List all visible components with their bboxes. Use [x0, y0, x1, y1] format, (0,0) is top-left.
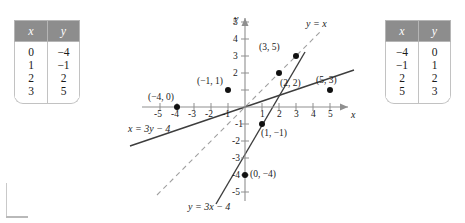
table-cell: 0	[419, 46, 450, 59]
point-label-1-neg1: (1, −1)	[261, 128, 287, 138]
y-tick-label: 2	[233, 68, 238, 78]
coordinate-graph: -5 -4 -3 -2 -1 1 2 3 4 5 5 4 3 2 -1 -2 -…	[120, 4, 375, 219]
point-1-neg1	[259, 121, 265, 127]
inverse-table: x −4 −1 2 5 y 0 1 2 3	[385, 20, 451, 104]
figure-container: x 0 1 2 3 y −4 −1 2 5	[0, 0, 465, 223]
function-table-column-y: y −4 −1 2 5	[47, 20, 80, 104]
point-label-neg4-0: (−4, 0)	[148, 92, 174, 102]
x-tick-label: 5	[328, 109, 333, 119]
y-tick-label: -4	[232, 170, 240, 180]
table-cell: 2	[15, 72, 47, 85]
function-table: x 0 1 2 3 y −4 −1 2 5	[14, 20, 80, 104]
point-label-neg1-1: (−1, 1)	[197, 76, 223, 86]
table-cell: 5	[386, 85, 418, 98]
point-label-0-neg4: (0, −4)	[250, 169, 276, 179]
x-axis-label: x	[351, 109, 355, 120]
y-tick-label: 4	[233, 34, 238, 44]
x-tick-label: -5	[154, 109, 162, 119]
x-tick-label: 1	[260, 109, 265, 119]
table-cell: 2	[48, 72, 79, 85]
point-label-2-2: (2, 2)	[280, 78, 301, 88]
function-table-column-x: x 0 1 2 3	[14, 20, 47, 104]
x-tick-label: 2	[277, 109, 282, 119]
point-label-3-5: (3, 5)	[259, 42, 280, 52]
line-label-x-equals-3y-minus-4: x = 3y − 4	[128, 123, 170, 134]
point-2-2	[276, 70, 282, 76]
inverse-table-column-y: y 0 1 2 3	[418, 20, 451, 104]
table-cell: 2	[419, 72, 450, 85]
y-tick-label: 3	[233, 51, 238, 61]
table-cell: −1	[48, 59, 79, 72]
y-tick-label: -5	[232, 187, 240, 197]
x-tick-label: 4	[311, 109, 316, 119]
y-tick-label: -1	[235, 119, 243, 129]
point-neg1-1	[225, 87, 231, 93]
y-axis-label: y	[234, 13, 238, 24]
inverse-table-column-x: x −4 −1 2 5	[385, 20, 418, 104]
table-cell: 1	[419, 59, 450, 72]
table-cell: 3	[419, 85, 450, 98]
x-tick-label: 3	[294, 109, 299, 119]
point-0-neg4	[242, 172, 248, 178]
point-3-5	[293, 53, 299, 59]
x-tick-label: -2	[205, 109, 213, 119]
data-points	[174, 53, 333, 178]
table-cell: −4	[386, 46, 418, 59]
x-tick-label: -4	[171, 109, 179, 119]
page-frame-bottom-mark	[6, 216, 28, 218]
point-label-5-3: (5, 3)	[316, 75, 337, 85]
line-label-y-equals-3x-minus-4: y = 3x − 4	[188, 201, 230, 212]
table-cell: 0	[15, 46, 47, 59]
table-cell: 2	[386, 72, 418, 85]
function-table-header-x: x	[14, 20, 47, 42]
page-frame-left-mark	[6, 183, 7, 217]
x-tick-label: -3	[188, 109, 196, 119]
inverse-table-header-x: x	[385, 20, 418, 42]
y-tick-label: -2	[232, 136, 240, 146]
table-cell: 3	[15, 85, 47, 98]
function-table-header-y: y	[47, 20, 80, 42]
table-cell: 5	[48, 85, 79, 98]
table-cell: −1	[386, 59, 418, 72]
y-tick-label: -3	[232, 153, 240, 163]
inverse-table-header-y: y	[418, 20, 451, 42]
table-cell: −4	[48, 46, 79, 59]
table-cell: 1	[15, 59, 47, 72]
line-label-y-equals-x: y = x	[306, 18, 327, 29]
x-tick-label: -1	[222, 109, 230, 119]
point-5-3	[327, 87, 333, 93]
x-axis-arrow-icon	[340, 104, 348, 111]
